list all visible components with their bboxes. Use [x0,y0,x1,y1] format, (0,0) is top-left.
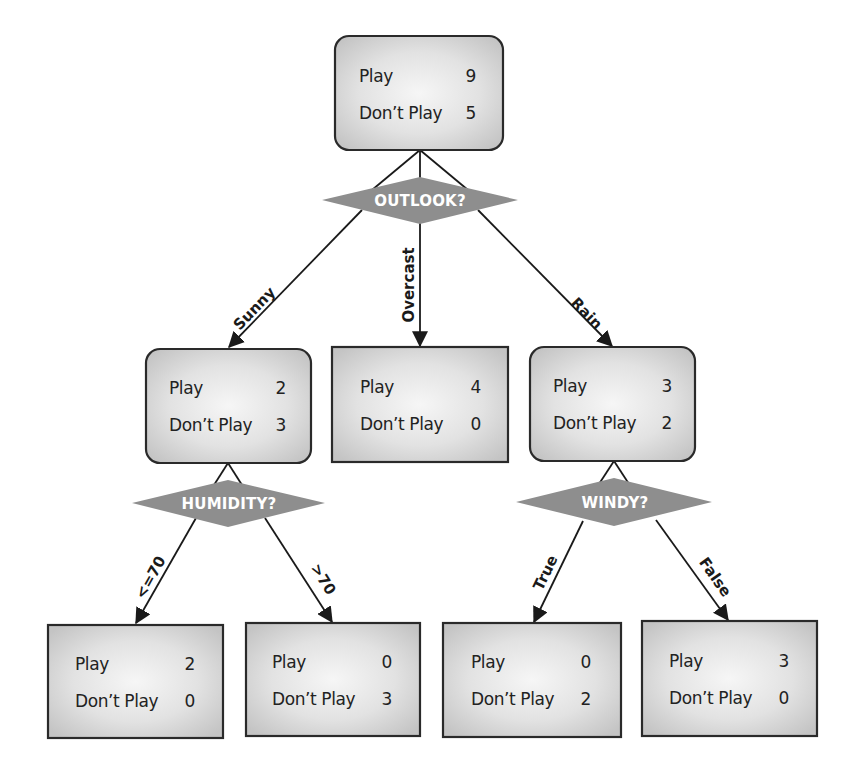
node-gt70-play-label: Play [272,652,306,672]
edge-label-overcast: Overcast [400,247,418,322]
node-false-dontplay-label: Don’t Play [669,688,753,708]
node-overcast-dontplay-label: Don’t Play [360,414,444,434]
node-false-play-value: 3 [779,651,789,671]
edge-label-true: True [529,552,561,593]
node-root-play-value: 9 [466,66,476,86]
edge-windy-true: True [529,521,583,622]
node-le70-play-label: Play [75,654,109,674]
node-sunny-dontplay-value: 3 [276,415,286,435]
node-humidity-gt70: Play 0 Don’t Play 3 [246,623,420,736]
node-le70-dontplay-label: Don’t Play [75,691,159,711]
node-true-play-value: 0 [581,652,591,672]
node-false-dontplay-value: 0 [779,688,789,708]
node-le70-play-value: 2 [185,654,195,674]
node-rain: Play 3 Don’t Play 2 [530,347,695,461]
node-overcast-play-label: Play [360,377,394,397]
node-sunny: Play 2 Don’t Play 3 [146,349,311,463]
edge-windy-false: False [656,520,735,620]
node-sunny-play-label: Play [169,378,203,398]
edge-overcast: Overcast [400,222,420,346]
node-gt70-dontplay-value: 3 [382,689,392,709]
node-true-play-label: Play [471,652,505,672]
node-gt70-play-value: 0 [382,652,392,672]
edge-label-sunny: Sunny [230,283,280,334]
node-true-dontplay-value: 2 [581,689,591,709]
decision-outlook: OUTLOOK? [322,177,518,224]
node-true-dontplay-label: Don’t Play [471,689,555,709]
edge-sunny: Sunny [229,210,362,347]
node-gt70-dontplay-label: Don’t Play [272,689,356,709]
node-sunny-dontplay-label: Don’t Play [169,415,253,435]
node-overcast-play-value: 4 [471,377,481,397]
node-windy-false: Play 3 Don’t Play 0 [642,621,817,736]
node-root-dontplay-label: Don’t Play [359,103,443,123]
node-humidity-le70: Play 2 Don’t Play 0 [48,625,223,738]
decision-windy: WINDY? [516,478,712,526]
decision-tree-diagram: Sunny Overcast Rain <=70 >70 True False … [0,0,860,780]
edge-rain: Rain [478,210,612,346]
node-root-dontplay-value: 5 [466,103,476,123]
node-rain-dontplay-value: 2 [662,413,672,433]
decision-label-windy: WINDY? [582,494,649,512]
edge-label-false: False [695,554,735,600]
edge-label-gt70: >70 [307,560,340,598]
node-overcast-dontplay-value: 0 [471,414,481,434]
node-rain-dontplay-label: Don’t Play [553,413,637,433]
edge-label-le70: <=70 [132,553,170,602]
decision-humidity: HUMIDITY? [132,480,325,527]
node-overcast: Play 4 Don’t Play 0 [332,347,508,462]
edge-humidity-le70: <=70 [132,518,196,623]
edge-humidity-gt70: >70 [265,518,340,622]
node-rain-play-label: Play [553,376,587,396]
node-root: Play 9 Don’t Play 5 [335,36,503,150]
node-sunny-play-value: 2 [276,378,286,398]
node-false-play-label: Play [669,651,703,671]
decision-label-outlook: OUTLOOK? [374,192,466,210]
node-rain-play-value: 3 [662,376,672,396]
decision-label-humidity: HUMIDITY? [182,495,277,513]
node-windy-true: Play 0 Don’t Play 2 [443,623,621,737]
node-le70-dontplay-value: 0 [185,691,195,711]
node-root-play-label: Play [359,66,393,86]
edge-label-rain: Rain [567,294,606,333]
